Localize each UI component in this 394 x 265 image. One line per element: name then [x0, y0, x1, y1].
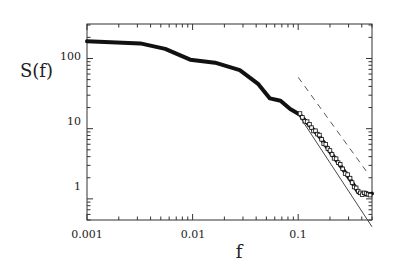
y-tick-label-2: 100 [60, 50, 81, 63]
x-tick-label-1: 0.01 [181, 228, 206, 241]
data-series [87, 41, 372, 227]
x-tick-label-2: 0.1 [289, 228, 307, 241]
data-curve [87, 41, 372, 194]
y-tick-label-1: 10 [67, 115, 81, 128]
chart: 0.001 0.01 0.1 1 10 100 f S(f) [0, 0, 394, 265]
x-axis-title: f [236, 241, 244, 262]
axis-ticks [87, 24, 372, 220]
x-tick-label-0: 0.001 [71, 228, 103, 241]
y-tick-label-0: 1 [74, 180, 81, 193]
plot-axes [87, 24, 372, 220]
y-axis-title: S(f) [20, 60, 53, 81]
fit-line [298, 114, 372, 226]
